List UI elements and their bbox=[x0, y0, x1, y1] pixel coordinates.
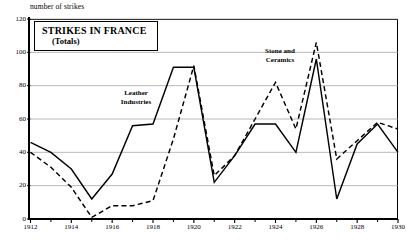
y-tick-label: 80 bbox=[0, 82, 26, 89]
annotation-line: Industries bbox=[104, 98, 168, 107]
series-line-leather-industries bbox=[31, 59, 399, 199]
y-tick-label: 20 bbox=[0, 182, 26, 189]
x-tick-label: 1928 bbox=[342, 224, 372, 231]
y-tick-label: 120 bbox=[0, 16, 26, 23]
chart-title-box: STRIKES IN FRANCE (Totals) bbox=[34, 21, 158, 51]
y-tick-label: 40 bbox=[0, 149, 26, 156]
x-tick-label: 1924 bbox=[261, 224, 291, 231]
annotation-line: Ceramics bbox=[248, 56, 312, 65]
x-tick-label: 1920 bbox=[179, 224, 209, 231]
chart-title: STRIKES IN FRANCE bbox=[42, 25, 147, 36]
x-tick-label: 1926 bbox=[301, 224, 331, 231]
annotation-stone-and-ceramics: Stone andCeramics bbox=[248, 47, 312, 64]
x-tick-label: 1930 bbox=[383, 224, 410, 231]
x-tick-label: 1918 bbox=[138, 224, 168, 231]
y-tick-label: 0 bbox=[0, 216, 26, 223]
y-tick-label: 100 bbox=[0, 49, 26, 56]
y-tick-label: 60 bbox=[0, 116, 26, 123]
x-tick-label: 1922 bbox=[220, 224, 250, 231]
x-tick-label: 1914 bbox=[56, 224, 86, 231]
x-minor-ticks bbox=[51, 219, 378, 222]
x-tick-label: 1912 bbox=[16, 224, 46, 231]
series-lines bbox=[31, 42, 399, 217]
annotation-leather-industries: LeatherIndustries bbox=[104, 89, 168, 106]
chart-subtitle: (Totals) bbox=[42, 36, 147, 47]
x-tick-label: 1916 bbox=[97, 224, 127, 231]
annotation-line: Stone and bbox=[248, 47, 312, 56]
y-ticks bbox=[27, 19, 31, 219]
annotation-line: Leather bbox=[104, 89, 168, 98]
